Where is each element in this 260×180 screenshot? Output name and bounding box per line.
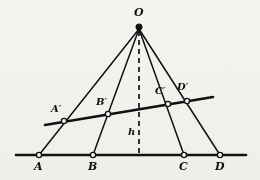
diagram-canvas [0,0,260,180]
point-C-prime [165,101,170,106]
point-D-prime [184,98,189,103]
point-A [36,152,41,157]
ray-O-D [139,29,220,155]
label-O: O [134,7,144,18]
label-C: C [179,161,188,172]
label-A: A [34,161,43,172]
ray-O-A [39,29,139,155]
label-D-prime: D′ [177,82,188,92]
point-B [90,152,95,157]
label-C-prime: C′ [155,86,166,96]
label-A-prime: A′ [51,104,61,114]
label-B: B [88,161,97,172]
point-C [181,152,186,157]
point-B-prime [105,111,110,116]
label-B-prime: B′ [96,97,107,107]
point-O [136,24,142,30]
label-D: D [215,161,225,172]
point-A-prime [61,118,66,123]
geometry-figure: O A B C D A′ B′ C′ D′ h [0,0,260,180]
label-h: h [128,127,135,137]
point-D [217,152,222,157]
